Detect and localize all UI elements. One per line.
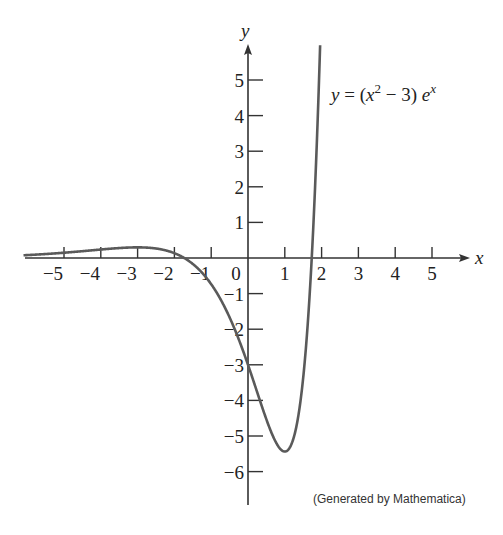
tick-labels: −5−4−3−2−101234554321−1−2−3−4−5−6 — [43, 70, 437, 483]
eq-sup-x: x — [429, 81, 436, 96]
credit-note: (Generated by Mathematica) — [313, 492, 466, 506]
x-tick-label: 2 — [317, 263, 327, 284]
x-tick-label: −3 — [116, 263, 136, 284]
x-tick-label: 3 — [354, 263, 364, 284]
function-curve — [24, 45, 321, 451]
x-tick-label: 0 — [231, 263, 241, 284]
x-tick-label: 1 — [280, 263, 290, 284]
y-tick-label: 1 — [235, 212, 245, 233]
y-tick-label: 3 — [235, 141, 245, 162]
x-tick-label: −2 — [153, 263, 173, 284]
x-tick-label: −5 — [43, 263, 63, 284]
x-tick-label: 5 — [427, 263, 437, 284]
x-tick-label: −4 — [80, 263, 101, 284]
y-tick-label: 5 — [235, 70, 245, 91]
y-tick-label: −5 — [224, 426, 244, 447]
y-tick-label: −1 — [224, 284, 244, 305]
equation-label: y = (x2 − 3) ex — [329, 81, 436, 106]
y-tick-label: 2 — [235, 177, 245, 198]
x-tick-label: 4 — [390, 263, 400, 284]
y-tick-label: −3 — [224, 355, 244, 376]
y-tick-label: −4 — [224, 390, 245, 411]
y-tick-label: 4 — [235, 106, 245, 127]
x-axis-label: x — [474, 247, 484, 268]
plot-canvas: −5−4−3−2−101234554321−1−2−3−4−5−6 x y y … — [0, 0, 503, 535]
y-tick-label: −6 — [224, 462, 244, 483]
y-axis-label: y — [239, 20, 250, 41]
